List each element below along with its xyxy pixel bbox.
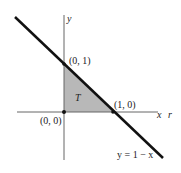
label-point-1-0: (1, 0) (114, 100, 136, 110)
x-axis-label: x (157, 110, 161, 120)
line-y-equals-1-minus-x (15, 17, 163, 158)
diagram-canvas (0, 0, 181, 173)
region-label: T (75, 93, 81, 103)
y-axis-label: y (67, 14, 71, 24)
line-equation-label: y = 1 − x (117, 150, 153, 160)
point-1-0 (111, 110, 115, 114)
origin-point (62, 110, 66, 114)
label-point-0-1: (0, 1) (69, 56, 91, 66)
point-0-1 (62, 62, 66, 66)
x-axis-label-extra: r (168, 110, 172, 120)
label-origin: (0, 0) (40, 116, 62, 126)
